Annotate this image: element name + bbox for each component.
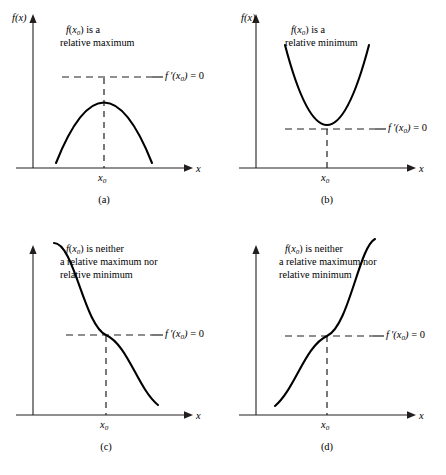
tick-label-a: x0	[98, 172, 106, 185]
x-axis-label-a: x	[196, 163, 201, 175]
y-axis-label-b: f(x)	[241, 12, 256, 24]
x-axis-label-c: x	[196, 410, 201, 422]
x-axis-label-d: x	[419, 410, 424, 422]
x-axis-arrow-b	[407, 164, 416, 171]
derivative-label-a: f ′(x0) = 0	[165, 70, 204, 83]
caption-c-line3: relative minimum	[60, 269, 133, 281]
panel-letter-a: (a)	[84, 194, 124, 205]
derivative-label-c: f ′(x0) = 0	[165, 328, 204, 341]
caption-b-line2: relative minimum	[285, 37, 358, 49]
tick-label-d: x0	[321, 419, 329, 432]
curve-b	[285, 45, 369, 125]
y-axis-arrow-c	[29, 245, 36, 254]
caption-d: f(x0) is neither	[285, 243, 343, 256]
tick-label-c: x0	[100, 419, 108, 432]
x-axis-arrow-d	[407, 411, 416, 418]
y-axis-arrow-a	[29, 14, 36, 23]
panel-letter-c: (c)	[86, 441, 126, 452]
panel-d: f(x0) is neither a relative maximum nor …	[223, 237, 446, 474]
panel-c: f(x0) is neither a relative maximum nor …	[0, 237, 223, 474]
caption-a-line2: relative maximum	[60, 37, 134, 49]
figure-root: f(x) x f(x0) is a relative maximum f ′(x…	[0, 0, 446, 475]
x-axis-arrow-a	[184, 164, 193, 171]
caption-a: f(x0) is a	[66, 24, 100, 37]
panel-b: f(x) x f(x0) is a relative minimum f ′(x…	[223, 0, 446, 237]
derivative-label-b: f ′(x0) = 0	[388, 122, 427, 135]
caption-b: f(x0) is a	[291, 24, 325, 37]
caption-c-line2: a relative maximum nor	[60, 256, 158, 268]
panel-a: f(x) x f(x0) is a relative maximum f ′(x…	[0, 0, 223, 237]
tick-label-b: x0	[321, 172, 329, 185]
panel-letter-b: (b)	[307, 194, 347, 205]
x-axis-arrow-c	[184, 411, 193, 418]
caption-c: f(x0) is neither	[66, 243, 124, 256]
panel-letter-d: (d)	[307, 441, 347, 452]
y-axis-arrow-d	[252, 245, 259, 254]
caption-d-line3: relative minimum	[279, 269, 352, 281]
y-axis-label-a: f(x)	[12, 12, 27, 24]
derivative-label-d: f ′(x0) = 0	[386, 329, 425, 342]
caption-d-line2: a relative maximum nor	[279, 256, 377, 268]
x-axis-label-b: x	[419, 163, 424, 175]
